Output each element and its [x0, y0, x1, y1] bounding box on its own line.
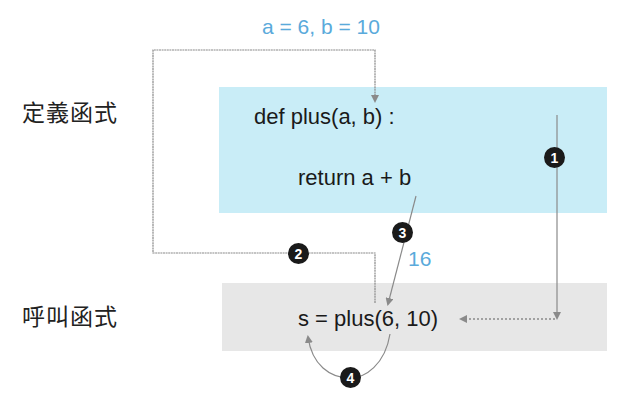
step-badge-2: 2 [288, 243, 309, 264]
definition-label: 定義函式 [22, 94, 118, 128]
step-badge-3: 3 [392, 222, 413, 243]
def-line: def plus(a, b) : [254, 104, 395, 130]
flow-arrows [0, 0, 621, 405]
call-label: 呼叫函式 [22, 298, 118, 332]
call-line: s = plus(6, 10) [298, 306, 438, 332]
step-badge-1: 1 [544, 147, 565, 168]
step-badge-4: 4 [340, 367, 361, 388]
return-value-annotation: 16 [408, 247, 431, 271]
arguments-annotation: a = 6, b = 10 [262, 15, 380, 39]
return-line: return a + b [298, 165, 411, 191]
